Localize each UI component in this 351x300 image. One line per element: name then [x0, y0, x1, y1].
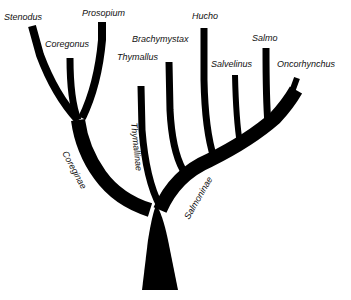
branch-hucho	[204, 28, 214, 158]
branch-thymallinae	[141, 86, 160, 206]
branch-prosopium	[82, 22, 102, 118]
label-prosopium: Prosopium	[82, 8, 126, 18]
label-coregonus: Coregonus	[45, 39, 90, 49]
branch-brachymystax	[169, 62, 183, 170]
branch-salmoninae	[160, 90, 296, 210]
branch-salmo	[266, 48, 268, 124]
label-thymallus: Thymallus	[117, 52, 159, 62]
branch-salvelinus	[235, 75, 240, 144]
label-hucho: Hucho	[192, 11, 218, 21]
genus-labels: Stenodus Prosopium Coregonus Thymallus B…	[4, 8, 336, 69]
label-brachymystax: Brachymystax	[132, 34, 189, 44]
label-oncorhynchus: Oncorhynchus	[277, 59, 336, 69]
phylogenetic-tree: Stenodus Prosopium Coregonus Thymallus B…	[0, 0, 351, 300]
trunk	[142, 205, 178, 290]
label-stenodus: Stenodus	[4, 12, 43, 22]
label-salmo: Salmo	[252, 33, 278, 43]
label-salvelinus: Salvelinus	[211, 59, 253, 69]
